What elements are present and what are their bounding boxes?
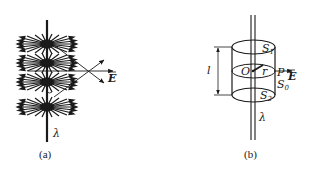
figure-b: l S1 O r P E S0 S2 λ (b) [207,15,297,161]
label-lambda-a: λ [52,127,60,140]
label-o: O [241,65,250,78]
label-r: r [262,65,268,78]
label-lambda-b: λ [258,111,266,124]
caption-a: (a) [39,148,52,161]
label-e-b: E [287,70,297,83]
caption-b: (b) [244,148,257,161]
element-marker [47,92,52,93]
figure-a: E λ (a) [17,20,117,161]
label-e-a: E [107,72,117,85]
field-vector-down [54,45,104,83]
label-l: l [207,64,211,77]
figure-canvas: E λ (a) l S1 O r P E [0,0,312,174]
